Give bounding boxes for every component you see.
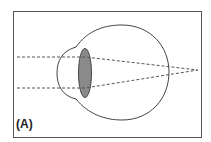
lens [79, 49, 92, 98]
panel-label: (A) [16, 117, 33, 131]
